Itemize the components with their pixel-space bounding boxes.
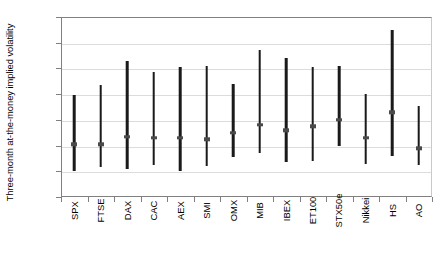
range-bar xyxy=(338,66,341,146)
x-axis-tick-mark xyxy=(273,197,274,202)
x-axis-tick-mark xyxy=(353,197,354,202)
x-axis-tick-label: STX50e xyxy=(326,205,353,271)
x-axis-tick-label-text: SPX xyxy=(69,201,80,220)
x-axis-tick-mark xyxy=(220,197,221,202)
x-axis-tick-mark xyxy=(326,197,327,202)
range-bar xyxy=(73,95,76,171)
x-axis-tick-mark xyxy=(247,197,248,202)
x-axis-tick-mark xyxy=(194,197,195,202)
median-marker xyxy=(389,110,395,113)
median-marker xyxy=(257,123,263,126)
median-marker xyxy=(283,128,289,131)
range-bar xyxy=(311,67,314,161)
x-axis-tick-label: Nikkei xyxy=(353,205,380,271)
x-axis-tick-label-text: SMI xyxy=(201,202,212,219)
x-axis-tick-label: SMI xyxy=(194,205,221,271)
x-axis-tick-label: DAX xyxy=(114,205,141,271)
x-axis-tick-mark xyxy=(88,197,89,202)
x-axis-tick-label: OMX xyxy=(220,205,247,271)
x-axis-tick-label-text: HS xyxy=(387,204,398,217)
x-axis-tick-label-text: MIB xyxy=(254,202,265,219)
range-bar xyxy=(126,61,129,169)
x-axis-tick-label-text: FTSE xyxy=(95,199,106,223)
x-axis-tick-label-text: AO xyxy=(413,204,424,218)
x-axis-tick-label-text: ET100 xyxy=(307,197,318,225)
range-bar xyxy=(258,50,261,153)
x-axis-tick-label: HS xyxy=(379,205,406,271)
median-marker xyxy=(204,137,210,140)
median-marker xyxy=(336,118,342,121)
range-bar xyxy=(285,58,288,162)
x-axis-tick-label: MIB xyxy=(247,205,274,271)
x-axis-tick-label-text: DAX xyxy=(122,201,133,220)
x-axis-tick-mark xyxy=(300,197,301,202)
median-marker xyxy=(177,136,183,139)
x-axis-tick-label-text: OMX xyxy=(228,200,239,221)
x-axis-tick-label: ET100 xyxy=(300,205,327,271)
x-axis-tick-label-text: IBEX xyxy=(281,200,292,221)
y-axis-title-label: Three-month at-the-money implied volatil… xyxy=(5,24,16,202)
median-marker xyxy=(416,146,422,149)
x-axis-tick-label-text: Nikkei xyxy=(360,198,371,224)
x-axis-tick-label: AEX xyxy=(167,205,194,271)
x-axis-tick-mark xyxy=(61,197,62,202)
x-axis-tick-mark xyxy=(114,197,115,202)
median-marker xyxy=(151,136,157,139)
range-bar xyxy=(232,84,235,157)
x-axis-tick-label: IBEX xyxy=(273,205,300,271)
range-bar xyxy=(205,66,208,166)
x-axis-tick-label: SPX xyxy=(61,205,88,271)
x-axis-tick-mark xyxy=(167,197,168,202)
range-bar xyxy=(99,85,102,167)
range-bar xyxy=(179,67,182,171)
x-axis-tick-label-text: AEX xyxy=(175,201,186,220)
x-axis-tick-label: AO xyxy=(406,205,433,271)
median-marker xyxy=(363,136,369,139)
median-marker xyxy=(71,143,77,146)
range-bar xyxy=(364,94,367,163)
median-marker xyxy=(124,135,130,138)
x-axis-tick-mark xyxy=(406,197,407,202)
median-marker xyxy=(230,131,236,134)
x-axis-tick-mark xyxy=(379,197,380,202)
x-axis-tick-label-text: CAC xyxy=(148,201,159,221)
data-series-layer xyxy=(61,17,432,197)
range-bar xyxy=(417,106,420,165)
x-axis-tick-label: CAC xyxy=(141,205,168,271)
median-marker xyxy=(310,125,316,128)
median-marker xyxy=(98,143,104,146)
range-bar xyxy=(152,72,155,165)
x-axis-tick-label-text: STX50e xyxy=(334,194,345,228)
range-bar xyxy=(391,30,394,156)
implied-volatility-range-chart: Three-month at-the-money implied volatil… xyxy=(0,0,445,273)
y-axis-title: Three-month at-the-money implied volatil… xyxy=(0,0,20,225)
x-axis-tick-label: FTSE xyxy=(88,205,115,271)
x-axis-tick-mark xyxy=(141,197,142,202)
x-axis-tick-mark xyxy=(432,197,433,202)
